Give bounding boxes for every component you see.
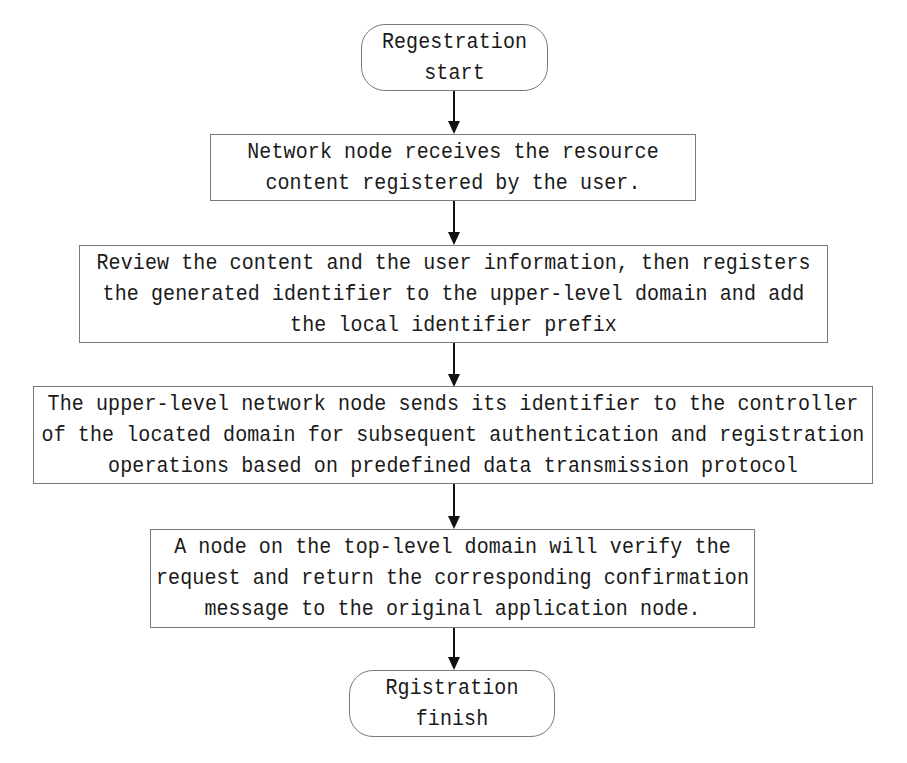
start-terminal: Regestration start: [361, 24, 548, 91]
process-step-2: Review the content and the user informat…: [79, 245, 828, 343]
step-2-line-1: Review the content and the user informat…: [96, 246, 810, 279]
step-4-line-2: request and return the corresponding con…: [156, 562, 749, 595]
arrowhead-4-icon: [448, 516, 460, 529]
arrow-connector-2: [453, 201, 455, 233]
process-step-4: A node on the top-level domain will veri…: [150, 529, 755, 628]
process-step-1: Network node receives the resource conte…: [210, 134, 696, 201]
arrowhead-2-icon: [448, 232, 460, 245]
start-label-line-1: Regestration: [382, 25, 527, 58]
arrowhead-5-icon: [448, 657, 460, 670]
end-label-line-2: finish: [416, 702, 489, 735]
step-3-line-1: The upper-level network node sends its i…: [48, 387, 859, 420]
step-2-line-2: the generated identifier to the upper-le…: [103, 277, 805, 310]
end-terminal: Rgistration finish: [349, 670, 555, 737]
step-1-line-1: Network node receives the resource: [247, 135, 658, 168]
step-1-line-2: content registered by the user.: [265, 166, 640, 199]
start-label-line-2: start: [424, 56, 485, 89]
step-3-line-3: operations based on predefined data tran…: [108, 449, 798, 482]
arrow-connector-3: [453, 343, 455, 375]
arrow-connector-4: [453, 484, 455, 516]
step-4-line-3: message to the original application node…: [204, 593, 700, 626]
arrow-connector-1: [453, 91, 455, 123]
end-label-line-1: Rgistration: [385, 671, 518, 704]
arrow-connector-5: [453, 628, 455, 658]
step-4-line-1: A node on the top-level domain will veri…: [174, 531, 731, 564]
step-2-line-3: the local identifier prefix: [290, 308, 617, 341]
arrowhead-1-icon: [448, 121, 460, 134]
process-step-3: The upper-level network node sends its i…: [33, 386, 873, 484]
step-3-line-2: of the located domain for subsequent aut…: [42, 418, 865, 451]
